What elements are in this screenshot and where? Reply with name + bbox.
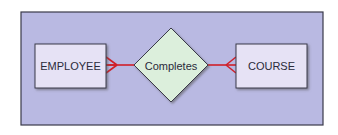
er-diagram: EMPLOYEE Completes COURSE [0,0,338,135]
relationship-completes-label: Completes [145,60,198,72]
entity-course[interactable]: COURSE [236,44,307,88]
entity-course-label: COURSE [248,60,295,72]
entity-employee[interactable]: EMPLOYEE [35,44,106,88]
entity-employee-label: EMPLOYEE [40,60,101,72]
